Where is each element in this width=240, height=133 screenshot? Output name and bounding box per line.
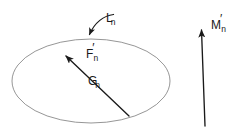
vector-arrow-M [202,30,206,126]
label-M-prime-n-sub: n [221,24,226,34]
label-M-prime-n: M′n [211,14,228,31]
label-L-n-sub: n [111,17,116,27]
label-F-prime-n-sub: n [94,53,99,63]
figure-vector-layer [0,0,240,133]
label-F-prime-n: F′n [86,43,100,60]
label-L-n: Ln [106,7,117,24]
label-G-n-sub: n [95,80,100,90]
label-G-n: Gn [88,70,102,87]
figure-canvas: Ln F′n Gn M′n [0,0,240,133]
